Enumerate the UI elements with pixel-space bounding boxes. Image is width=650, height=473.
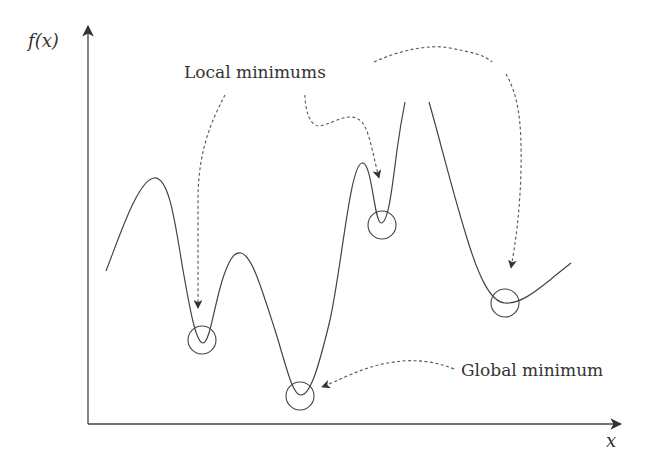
local-minimum-marker-2 [368, 211, 396, 239]
global-minimum-label: Global minimum [461, 360, 603, 380]
global-minimum-marker [286, 382, 314, 410]
function-curve-right [429, 102, 571, 303]
local-minimum-marker-1 [188, 326, 216, 354]
y-axis-label: f(x) [28, 30, 59, 51]
pointer-arrow-local-1 [198, 95, 225, 308]
local-minimums-label: Local minimums [184, 62, 326, 82]
pointer-arrow-local-2 [305, 95, 379, 178]
function-curve-left [106, 102, 405, 395]
x-axis-label: x [606, 430, 616, 451]
pointer-arrow-global [322, 361, 454, 387]
